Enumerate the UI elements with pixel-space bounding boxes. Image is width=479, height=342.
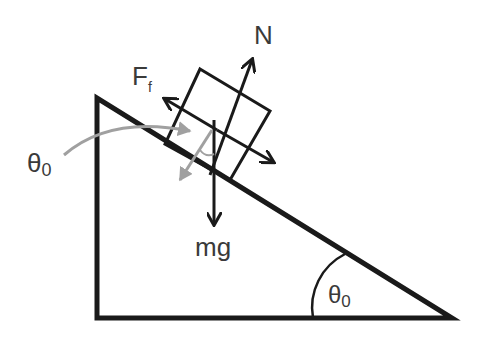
left-angle-label: θ0: [27, 150, 51, 176]
incline-angle-label: θ0: [328, 283, 351, 307]
weight-label: mg: [195, 234, 231, 260]
weight-text: mg: [195, 232, 231, 262]
normal-force-text: N: [254, 20, 273, 50]
incline-triangle: [97, 98, 452, 318]
friction-force-text: F: [132, 61, 148, 91]
parallel-force-arrow: [217, 130, 273, 162]
incline-angle-theta: θ: [328, 281, 341, 308]
incline-angle-subscript: 0: [341, 292, 350, 311]
diagram-canvas: [0, 0, 479, 342]
block: [165, 69, 270, 180]
left-angle-subscript: 0: [41, 160, 51, 180]
friction-force-label: Ff: [132, 63, 152, 89]
normal-force-label: N: [254, 22, 273, 48]
block-angle-arc: [200, 150, 214, 155]
friction-force-subscript: f: [148, 79, 152, 95]
left-angle-theta: θ: [27, 148, 41, 178]
